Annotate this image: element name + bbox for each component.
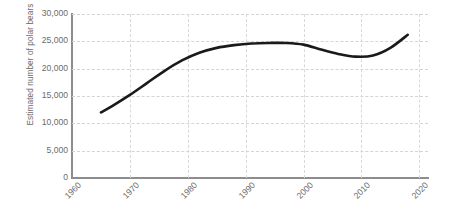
y-axis-tick-label: 20,000	[24, 64, 68, 73]
x-axis-tick-label: 2010	[320, 180, 372, 221]
y-axis-tick-label: 5,000	[24, 146, 68, 155]
polar-bear-line-chart: Estimated number of polar bears 05,00010…	[0, 0, 450, 221]
x-axis-tick-label: 2020	[378, 180, 430, 221]
y-axis-tick-label: 25,000	[24, 36, 68, 45]
x-axis-tick-label: 1990	[204, 180, 256, 221]
plot-area	[72, 14, 428, 178]
x-axis-tick-label: 2000	[262, 180, 314, 221]
y-axis-tick-label: 30,000	[24, 9, 68, 18]
y-axis-tick-label: 10,000	[24, 118, 68, 127]
x-axis-tick-label: 1980	[147, 180, 199, 221]
x-axis-tick-label: 1970	[89, 180, 141, 221]
x-axis-tick-labels: 1960197019801990200020102020	[0, 180, 450, 221]
series-polar-bears	[72, 14, 428, 178]
x-axis-tick-label: 1960	[31, 180, 83, 221]
y-axis-tick-label: 15,000	[24, 91, 68, 100]
series-line	[101, 35, 408, 113]
